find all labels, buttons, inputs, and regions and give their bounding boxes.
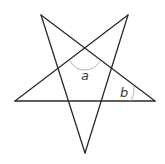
angle-b-label: b — [120, 85, 128, 100]
pentagram-diagram: a b — [0, 0, 165, 164]
edge-left-topright — [15, 15, 128, 101]
angle-a-label: a — [81, 68, 89, 83]
edge-topleft-bottom — [41, 15, 85, 153]
angle-b-arc — [131, 86, 134, 101]
edge-right-topleft — [41, 15, 155, 101]
edge-topright-bottom — [85, 15, 128, 153]
